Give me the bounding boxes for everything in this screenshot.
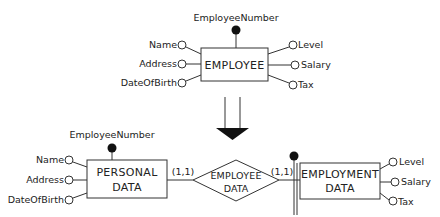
employee-entity-name: EMPLOYEE <box>205 59 265 72</box>
external-identifier-dot-icon <box>290 152 299 161</box>
relationship-name-line2: DATA <box>224 183 249 194</box>
attribute-circle-icon <box>391 178 399 186</box>
attribute-label-level: Level <box>399 156 424 167</box>
er-diagram: EmployeeNumber EMPLOYEE Name Address Dat… <box>0 0 440 217</box>
attribute-circle-icon <box>389 158 397 166</box>
attribute-label-address: Address <box>139 58 177 69</box>
relationship-name-line1: EMPLOYEE <box>210 170 261 181</box>
identifier-dot-icon <box>232 26 241 35</box>
attribute-circle-icon <box>178 79 186 87</box>
attribute-circle-icon <box>289 41 297 49</box>
left-cardinality: (1,1) <box>172 166 195 177</box>
employee-entity <box>186 30 291 83</box>
double-arrow-down-icon <box>225 97 240 130</box>
employment-data-name-line2: DATA <box>325 182 355 195</box>
attribute-label-name: Name <box>149 39 177 50</box>
attribute-circle-icon <box>65 176 73 184</box>
attribute-label-salary: Salary <box>301 59 331 70</box>
attribute-label-dateofbirth: DateOfBirth <box>121 77 177 88</box>
attribute-label-tax: Tax <box>297 79 314 90</box>
attribute-circle-icon <box>178 60 186 68</box>
personal-data-name-line1: PERSONAL <box>96 166 158 179</box>
identifier-dot-icon <box>108 144 117 153</box>
right-cardinality: (1,1) <box>271 166 294 177</box>
employment-data-name-line1: EMPLOYMENT <box>301 168 379 181</box>
attribute-label-dateofbirth: DateOfBirth <box>8 194 64 205</box>
attribute-circle-icon <box>291 61 299 69</box>
attribute-label-address: Address <box>26 174 64 185</box>
attribute-circle-icon <box>289 81 297 89</box>
attribute-label-tax: Tax <box>397 196 414 207</box>
attribute-circle-icon <box>65 156 73 164</box>
attribute-circle-icon <box>65 196 73 204</box>
employee-identifier-label: EmployeeNumber <box>193 12 278 23</box>
attribute-label-level: Level <box>298 39 323 50</box>
attribute-label-salary: Salary <box>401 176 431 187</box>
attribute-circle-icon <box>178 41 186 49</box>
attribute-circle-icon <box>389 197 397 205</box>
attribute-label-name: Name <box>36 154 64 165</box>
arrow-head-icon <box>216 128 249 140</box>
personal-data-name-line2: DATA <box>112 181 142 194</box>
personal-data-identifier-label: EmployeeNumber <box>69 129 154 140</box>
